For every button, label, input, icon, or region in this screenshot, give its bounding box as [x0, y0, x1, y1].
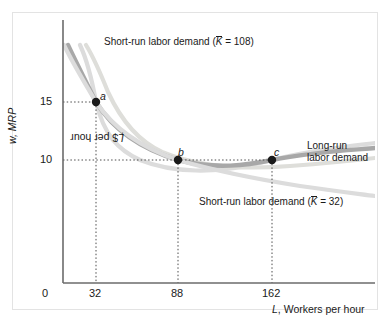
y-tick-15: 15 [40, 95, 52, 107]
label-sr108-suffix: = 108) [222, 36, 253, 47]
x-tick-0: 0 [42, 287, 48, 299]
label-short-run-32: Short-run labor demand (K = 32) [199, 196, 343, 208]
label-long-run: Long-run labor demand [307, 140, 368, 164]
label-sr32-suffix: = 32) [317, 196, 343, 207]
point-label-c: c [274, 146, 279, 158]
curves-group [64, 45, 375, 196]
data-point-a [92, 98, 100, 106]
chart-figure: w, MRPL, $ per hour 15 10 0 32 88 162 L,… [0, 0, 392, 325]
x-tick-88: 88 [171, 287, 183, 299]
curve-short-run-32 [64, 45, 375, 196]
guide-lines [63, 102, 272, 283]
label-short-run-108: Short-run labor demand (K = 108) [104, 36, 254, 48]
y-tick-10: 10 [40, 153, 52, 165]
label-sr108-prefix: Short-run labor demand ( [104, 36, 216, 47]
x-tick-162: 162 [262, 287, 280, 299]
x-axis-rest: , Workers per hour [278, 303, 365, 315]
y-axis-w: w, [6, 134, 18, 144]
x-tick-32: 32 [89, 287, 101, 299]
point-label-b: b [178, 146, 184, 158]
y-axis-title: w, MRPL, $ per hour [6, 26, 22, 146]
point-label-a: a [100, 90, 106, 102]
label-sr32-prefix: Short-run labor demand ( [199, 196, 311, 207]
label-lr-line1: Long-run [307, 140, 368, 152]
label-lr-line2: labor demand [307, 152, 368, 164]
y-axis-rest: , $ per hour [70, 132, 124, 144]
y-axis-mrp: MRP [6, 108, 18, 131]
x-axis-title: L, Workers per hour [272, 303, 365, 315]
